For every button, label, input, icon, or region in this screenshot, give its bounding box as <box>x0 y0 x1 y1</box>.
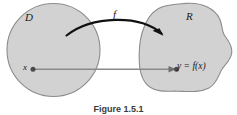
domain-label: D <box>25 12 33 23</box>
figure-caption: Figure 1.5.1 <box>0 104 237 114</box>
output-label: y = f(x) <box>177 62 206 72</box>
input-point-dot <box>31 67 36 72</box>
range-label: R <box>186 11 193 22</box>
figure-container: D R f x y = f(x) Figure 1.5.1 <box>0 0 237 115</box>
domain-set-shape <box>7 4 100 97</box>
function-mapping-diagram <box>0 0 237 115</box>
input-label: x <box>23 63 27 72</box>
function-label: f <box>113 9 116 20</box>
